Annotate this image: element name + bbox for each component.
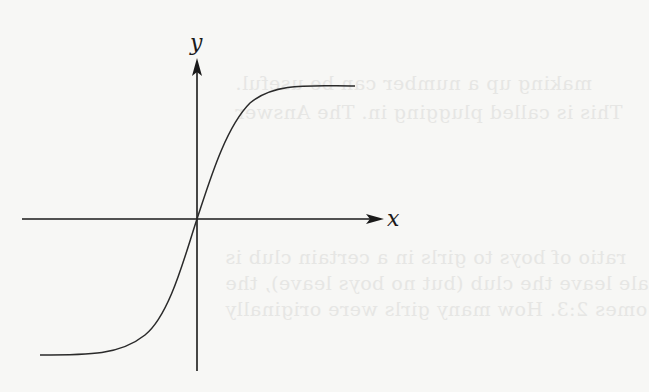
y-axis-label: y <box>189 30 203 55</box>
x-axis-label: x <box>387 206 400 231</box>
